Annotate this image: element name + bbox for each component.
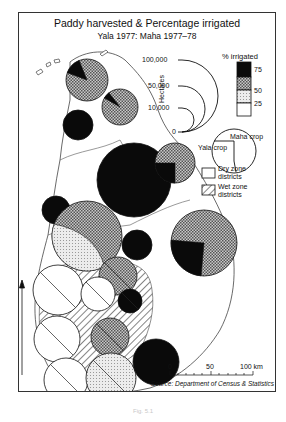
yala-crop-label: Yala crop [198, 144, 227, 151]
maha-crop-label: Maha crop [230, 133, 263, 140]
irrigated-class-50: 50 [254, 87, 262, 94]
source-note: Source: Department of Census & Statistic… [151, 380, 274, 387]
district-symbol-hambantota [133, 339, 179, 385]
size-tick-10000: 10,000 [148, 104, 169, 111]
scale-tick-50: 50 [206, 363, 214, 370]
map-subtitle: Yala 1977: Maha 1977–78 [18, 31, 276, 41]
figure-caption: Fig. 5.1 [0, 408, 286, 414]
size-legend [178, 60, 218, 132]
dry-zone-label: Dry zone districts [218, 165, 268, 181]
map-canvas [0, 0, 286, 422]
scale-tick-0: 0 [168, 363, 172, 370]
size-tick-0: 0 [172, 128, 176, 135]
scale-tick-100km: 100 km [240, 363, 263, 370]
map-title: Paddy harvested & Percentage irrigated [18, 17, 276, 29]
district-symbol-mannar [63, 110, 93, 140]
wet-zone-label: Wet zone districts [218, 183, 268, 199]
scale-bar [170, 371, 253, 375]
irrigated-class-25: 25 [254, 100, 262, 107]
district-symbol-polonnaruwa [122, 230, 152, 260]
size-tick-100000: 100,000 [142, 56, 167, 63]
irrigated-class-75: 75 [254, 66, 262, 73]
irrigated-legend [237, 62, 251, 116]
hectares-axis-label: Hectares [158, 75, 165, 103]
irrigated-legend-title: % irrigated [222, 52, 258, 61]
north-arrow-icon [20, 280, 25, 375]
